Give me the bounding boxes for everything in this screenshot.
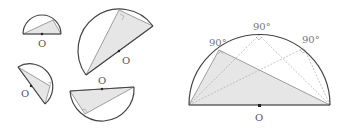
center-label: O — [255, 112, 263, 123]
semicircle-right-main: O 90° 90° 90° — [189, 21, 330, 123]
angle-label-top: 90° — [253, 21, 271, 32]
inscribed-triangle — [189, 50, 330, 105]
center-label: O — [98, 75, 106, 86]
semicircle-bottom-left: O — [18, 64, 53, 104]
center-point — [30, 85, 32, 87]
semicircle-large-rotated: O — [78, 9, 153, 75]
center-label: O — [38, 38, 46, 49]
semicircle-bottom-middle: O — [70, 75, 134, 121]
center-point — [101, 88, 103, 90]
inscribed-triangle — [70, 87, 134, 114]
semicircle-top-left: O — [23, 15, 61, 49]
center-point — [258, 104, 261, 107]
inscribed-triangle — [86, 10, 153, 75]
center-label: O — [21, 88, 29, 99]
thales-diagram: O O O O O — [0, 0, 348, 129]
angle-label-left: 90° — [209, 37, 227, 48]
center-point — [118, 50, 120, 52]
inscribed-triangle — [23, 20, 61, 34]
center-point — [41, 33, 43, 35]
angle-label-right: 90° — [302, 34, 320, 45]
center-label: O — [122, 55, 130, 66]
